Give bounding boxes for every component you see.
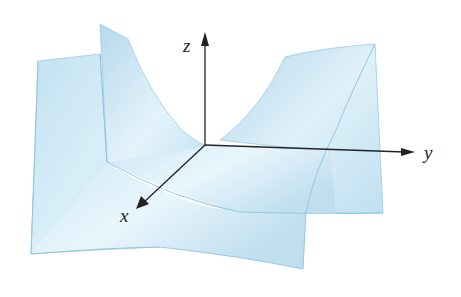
z-axis-arrowhead xyxy=(201,32,209,46)
y-axis-label: y xyxy=(424,143,432,162)
x-axis-label: x xyxy=(120,206,128,225)
saddle-surface-diagram xyxy=(0,0,461,297)
y-axis-arrowhead xyxy=(401,148,415,156)
z-axis-label: z xyxy=(183,36,190,55)
